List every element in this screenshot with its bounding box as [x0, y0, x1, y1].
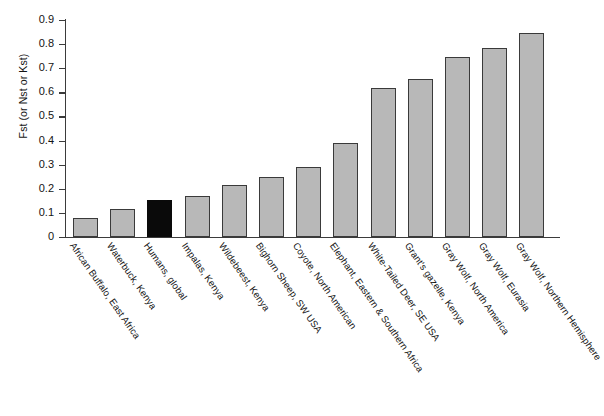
bar: [519, 33, 544, 237]
x-axis-label: Gray Wolf, North America: [440, 241, 511, 337]
y-tick-mark: [59, 68, 65, 69]
bar: [110, 209, 135, 237]
y-tick-mark: [59, 237, 65, 238]
y-tick-label: 0.3: [0, 159, 54, 170]
x-axis-label: Coyote, North American: [291, 241, 358, 331]
y-tick-label: 0.5: [0, 110, 54, 121]
y-tick-label: 0.9: [0, 14, 54, 25]
bars-group: [66, 20, 560, 237]
x-axis-label: African Buffalo, East Africa: [68, 241, 142, 341]
bar: [482, 48, 507, 237]
y-tick-label: 0.8: [0, 38, 54, 49]
y-tick-mark: [59, 141, 65, 142]
bar: [408, 79, 433, 237]
y-tick-label: 0.6: [0, 86, 54, 97]
y-tick-label: 0: [0, 231, 54, 242]
y-tick-mark: [59, 213, 65, 214]
y-tick-mark: [59, 189, 65, 190]
bar: [222, 185, 247, 237]
x-axis-line: [65, 237, 560, 238]
bar: [371, 88, 396, 237]
x-axis-label: Bighorn Sheep, SW USA: [254, 241, 324, 335]
bar: [445, 57, 470, 237]
y-tick-label: 0.7: [0, 62, 54, 73]
bar: [147, 200, 172, 237]
y-tick-mark: [59, 165, 65, 166]
y-tick-mark: [59, 20, 65, 21]
y-tick-label: 0.2: [0, 183, 54, 194]
y-tick-mark: [59, 116, 65, 117]
bar: [259, 177, 284, 237]
y-tick-mark: [59, 44, 65, 45]
y-tick-label: 0.1: [0, 207, 54, 218]
bar: [73, 218, 98, 237]
bar: [333, 143, 358, 237]
bar: [296, 167, 321, 237]
y-tick-label: 0.4: [0, 135, 54, 146]
x-axis-label: White-Tailed Deer, SE USA: [365, 241, 441, 343]
bar: [185, 196, 210, 237]
y-tick-mark: [59, 92, 65, 93]
